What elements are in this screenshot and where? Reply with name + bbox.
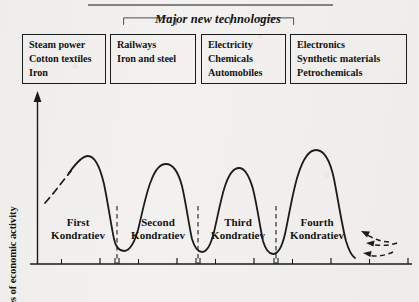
cycle-label-line: Kondratiev	[279, 229, 355, 242]
tech-box-second: Railways Iron and steel	[110, 34, 196, 84]
cycle-label-first: First Kondratiev	[38, 216, 118, 241]
tech-item: Petrochemicals	[297, 66, 401, 80]
cycle-label-line: Kondratiev	[120, 229, 196, 242]
future-branch-arrows	[361, 231, 397, 257]
cycle-label-line: Fourth	[279, 216, 355, 229]
tech-item: Steam power	[29, 38, 100, 52]
tech-box-fourth: Electronics Synthetic materials Petroche…	[290, 34, 407, 84]
top-rule-divider	[88, 4, 333, 6]
tech-item: Iron	[29, 66, 100, 80]
tech-item: Electricity	[208, 38, 280, 52]
figure-title: Major new technologies	[148, 12, 288, 26]
tech-item: Automobiles	[208, 66, 280, 80]
cycle-label-third: Third Kondratiev	[200, 216, 276, 241]
kondratiev-wave-chart: Indices of economic activity	[0, 86, 419, 302]
wave-curve	[69, 150, 355, 258]
cycle-label-line: First	[38, 216, 118, 229]
wave-lead-dashed	[45, 171, 71, 203]
chart-canvas	[0, 86, 419, 302]
tech-item: Cotton textiles	[29, 52, 100, 66]
cycle-label-line: Second	[120, 216, 196, 229]
technology-boxes-row: Steam power Cotton textiles Iron Railway…	[0, 34, 419, 86]
x-axis	[30, 258, 412, 264]
cycle-label-fourth: Fourth Kondratiev	[279, 216, 355, 241]
tech-item: Railways	[117, 38, 190, 52]
tech-item: Synthetic materials	[297, 52, 401, 66]
tech-item: Iron and steel	[117, 52, 190, 66]
tech-item: Electronics	[297, 38, 401, 52]
tech-item: Chemicals	[208, 52, 280, 66]
cycle-label-line: Kondratiev	[200, 229, 276, 242]
cycle-label-second: Second Kondratiev	[120, 216, 196, 241]
cycle-label-line: Kondratiev	[38, 229, 118, 242]
cycle-label-line: Third	[200, 216, 276, 229]
tech-box-third: Electricity Chemicals Automobiles	[201, 34, 286, 84]
y-axis-label: Indices of economic activity	[7, 177, 18, 302]
tech-box-first: Steam power Cotton textiles Iron	[22, 34, 106, 84]
kondratiev-wave-figure: Major new technologies Steam power Cotto…	[0, 0, 419, 302]
